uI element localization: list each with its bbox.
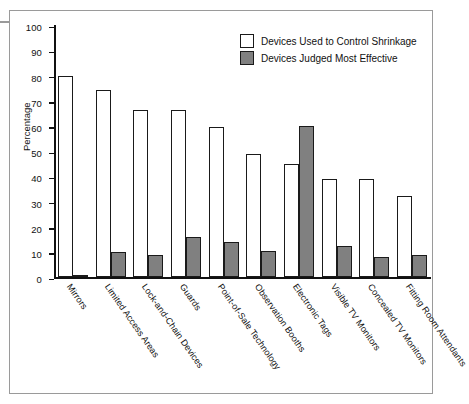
bar-group: [92, 25, 130, 277]
bar-effective: [224, 242, 239, 277]
bar-effective: [374, 257, 389, 277]
bar-used: [96, 90, 111, 278]
bar-used: [58, 76, 73, 278]
bar-effective: [73, 275, 88, 278]
x-axis-label-cell: Mirrors: [54, 280, 92, 400]
bar-group: [54, 25, 92, 277]
bar-used: [322, 179, 337, 277]
x-axis-line: [54, 277, 431, 279]
bar-effective: [186, 237, 201, 277]
legend-item-effective: Devices Judged Most Effective: [240, 51, 417, 65]
x-axis-label-cell: Concealed TV Monitors: [356, 280, 394, 400]
y-tick-label-10: 10: [31, 249, 42, 260]
x-axis-label-cell: Fitting Room Attendants: [393, 280, 431, 400]
legend-label-used: Devices Used to Control Shrinkage: [261, 36, 417, 47]
x-axis-label-text: Guards: [178, 282, 203, 312]
legend-label-effective: Devices Judged Most Effective: [261, 53, 398, 64]
x-axis-label-cell: Guards: [167, 280, 205, 400]
x-axis-label-cell: Limited Access Areas: [92, 280, 130, 400]
y-tick-label-0: 0: [37, 274, 42, 285]
y-tick-label-90: 90: [31, 47, 42, 58]
y-tick-label-40: 40: [31, 173, 42, 184]
legend-swatch-used: [240, 34, 254, 48]
x-axis-labels: MirrorsLimited Access AreasLock-and-Chai…: [54, 280, 431, 400]
bar-effective: [412, 255, 427, 278]
bar-used: [359, 179, 374, 277]
y-tick-label-50: 50: [31, 148, 42, 159]
x-axis-label-cell: Point-of-Sale Technology: [205, 280, 243, 400]
bar-effective: [261, 251, 276, 277]
y-tick-label-30: 30: [31, 198, 42, 209]
x-axis-label-text: Mirrors: [65, 282, 90, 311]
x-axis-label-cell: Electronic Tags: [280, 280, 318, 400]
y-tick-label-20: 20: [31, 223, 42, 234]
chart-legend: Devices Used to Control Shrinkage Device…: [236, 27, 423, 72]
chart-frame: Percentage 1009080706050403020100 Mirror…: [9, 10, 433, 394]
bar-used: [246, 154, 261, 277]
bar-used: [397, 196, 412, 278]
bar-used: [209, 127, 224, 277]
bar-used: [171, 110, 186, 278]
y-tick-label-100: 100: [26, 22, 42, 33]
bar-effective: [111, 252, 126, 277]
bar-used: [284, 164, 299, 277]
y-tick-label-60: 60: [31, 123, 42, 134]
bar-effective: [299, 126, 314, 277]
x-axis-label-text: Fitting Room Attendants: [404, 282, 469, 368]
x-axis-label-cell: Observation Booths: [243, 280, 281, 400]
y-tick-label-70: 70: [31, 97, 42, 108]
bar-group: [129, 25, 167, 277]
bar-effective: [148, 255, 163, 278]
x-axis-label-cell: Visible TV Monitors: [318, 280, 356, 400]
legend-item-used: Devices Used to Control Shrinkage: [240, 34, 417, 48]
y-tick-label-80: 80: [31, 72, 42, 83]
bar-effective: [337, 246, 352, 278]
bar-group: [167, 25, 205, 277]
bar-used: [133, 110, 148, 278]
legend-swatch-effective: [240, 51, 254, 65]
x-axis-label-cell: Lock-and-Chain Devices: [129, 280, 167, 400]
